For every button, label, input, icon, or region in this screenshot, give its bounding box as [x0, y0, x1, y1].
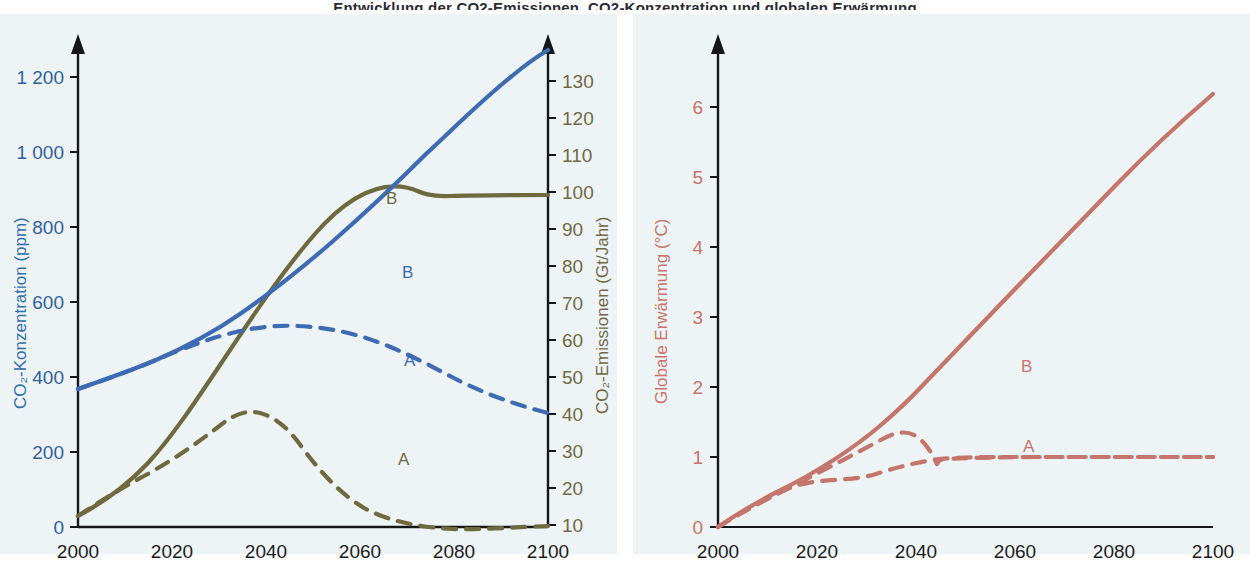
warming-y-tick-2: 2 — [692, 377, 703, 398]
right-y-tick-130: 130 — [562, 71, 594, 92]
right-y-tick-110: 110 — [562, 145, 592, 166]
right-y-tick-10: 10 — [562, 515, 583, 536]
right-y-tick-100: 100 — [562, 182, 594, 203]
left-y-tick-200: 200 — [32, 442, 64, 463]
series-emissions-b — [78, 186, 548, 516]
left-y-axis-title: CO₂-Konzentration (ppm) — [11, 217, 30, 409]
warming-y-tick-0: 0 — [692, 517, 703, 538]
left-y-tick-0: 0 — [53, 517, 64, 538]
left-y-tick-1200: 1 200 — [16, 67, 64, 88]
left-y-tick-600: 600 — [32, 292, 64, 313]
clipped-header-text: Entwicklung der CO2-Emissionen, CO2-Konz… — [0, 0, 1250, 10]
warming-y-tick-5: 5 — [692, 167, 703, 188]
right-y-tick-80: 80 — [562, 256, 583, 277]
left-y-tick-1000: 1 000 — [16, 142, 64, 163]
left-y-axis-arrowhead — [71, 34, 85, 54]
label-emissions-a: A — [398, 450, 410, 469]
left-chart-svg: 0 200 400 600 800 1 000 1 200 10 20 30 4… — [0, 14, 617, 554]
warming-y-tick-1: 1 — [692, 447, 703, 468]
left-x-tick-2100: 2100 — [527, 541, 569, 562]
warming-x-tick-2060: 2060 — [994, 541, 1036, 562]
label-concentration-a: A — [404, 351, 416, 370]
right-chart-panel: 0 1 2 3 4 5 6 2000 2020 2040 2060 2080 2… — [633, 14, 1250, 554]
right-y-tick-40: 40 — [562, 404, 583, 425]
warming-x-tick-2020: 2020 — [796, 541, 838, 562]
label-concentration-b: B — [402, 263, 413, 282]
left-x-tick-2080: 2080 — [433, 541, 475, 562]
right-y-axis-title: CO₂-Emissionen (Gt/Jahr) — [593, 217, 612, 414]
label-emissions-b: B — [386, 189, 397, 208]
left-chart-axes — [71, 34, 555, 527]
right-y-tick-120: 120 — [562, 108, 594, 129]
left-x-tick-2020: 2020 — [151, 541, 193, 562]
warming-x-tick-2080: 2080 — [1093, 541, 1135, 562]
right-y-tick-90: 90 — [562, 219, 583, 240]
right-y-tick-20: 20 — [562, 478, 583, 499]
warming-x-tick-2040: 2040 — [895, 541, 937, 562]
series-warming-b — [718, 94, 1213, 527]
right-y-tick-60: 60 — [562, 330, 583, 351]
series-warming-a-plateau — [718, 457, 1213, 527]
warming-y-tick-3: 3 — [692, 307, 703, 328]
warming-x-tick-2000: 2000 — [697, 541, 739, 562]
warming-y-tick-6: 6 — [692, 97, 703, 118]
series-emissions-a — [78, 412, 548, 529]
figure-page: Entwicklung der CO2-Emissionen, CO2-Konz… — [0, 0, 1250, 586]
series-concentration-b — [78, 50, 548, 389]
left-x-tick-2060: 2060 — [339, 541, 381, 562]
label-warming-b: B — [1021, 357, 1032, 376]
right-chart-svg: 0 1 2 3 4 5 6 2000 2020 2040 2060 2080 2… — [633, 14, 1250, 554]
warming-y-axis-title: Globale Erwärmung (°C) — [652, 219, 671, 404]
left-y-tick-800: 800 — [32, 217, 64, 238]
series-warming-a — [718, 432, 1213, 527]
right-y-tick-70: 70 — [562, 293, 583, 314]
warming-y-axis-arrowhead — [711, 34, 725, 54]
left-y-tick-400: 400 — [32, 367, 64, 388]
warming-x-tick-2100: 2100 — [1192, 541, 1234, 562]
warming-y-tick-4: 4 — [692, 237, 703, 258]
series-concentration-a — [78, 326, 548, 413]
left-x-tick-2040: 2040 — [245, 541, 287, 562]
warming-y-ticks — [710, 107, 718, 527]
label-warming-a: A — [1023, 437, 1035, 456]
right-y-tick-50: 50 — [562, 367, 583, 388]
right-chart-axes — [711, 34, 1213, 527]
left-x-tick-2000: 2000 — [57, 541, 99, 562]
left-chart-panel: 0 200 400 600 800 1 000 1 200 10 20 30 4… — [0, 14, 617, 554]
right-y-tick-30: 30 — [562, 441, 583, 462]
